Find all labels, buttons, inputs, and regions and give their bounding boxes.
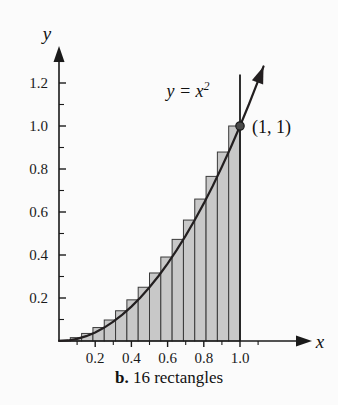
riemann-rectangle (150, 273, 161, 341)
figure-caption: b. 16 rectangles (0, 368, 338, 388)
rectangles-group (59, 126, 240, 341)
x-tick-label: 0.2 (86, 350, 105, 366)
curve-equation-label: y = x2 (164, 79, 209, 101)
riemann-rectangle (217, 152, 228, 341)
y-tick-label: 1.2 (29, 75, 48, 91)
riemann-sum-plot: 0.20.40.60.81.00.20.40.60.81.01.2y = x2(… (0, 0, 338, 405)
riemann-rectangle (138, 287, 149, 341)
y-tick-label: 0.8 (29, 161, 48, 177)
caption-text: 16 rectangles (133, 368, 223, 387)
caption-letter: b. (115, 368, 129, 387)
y-tick-label: 0.4 (29, 247, 48, 263)
x-tick-label: 1.0 (231, 350, 250, 366)
y-tick-label: 0.2 (29, 290, 48, 306)
figure-container: 0.20.40.60.81.00.20.40.60.81.01.2y = x2(… (0, 0, 338, 405)
marked-point-dot (236, 122, 244, 130)
x-tick-label: 0.8 (194, 350, 213, 366)
riemann-rectangle (206, 176, 217, 341)
y-axis-arrowhead (54, 46, 65, 62)
y-tick-label: 0.6 (29, 204, 48, 220)
curve-arrowhead (252, 66, 264, 84)
y-tick-label: 1.0 (29, 118, 48, 134)
point-coordinate-label: (1, 1) (252, 117, 291, 138)
y-axis-name-label: y (41, 23, 52, 44)
riemann-rectangle (195, 199, 206, 341)
x-axis-arrowhead (296, 336, 312, 347)
x-tick-label: 0.6 (158, 350, 177, 366)
x-tick-label: 0.4 (122, 350, 141, 366)
x-axis-name-label: x (315, 331, 325, 352)
riemann-rectangle (229, 126, 240, 341)
